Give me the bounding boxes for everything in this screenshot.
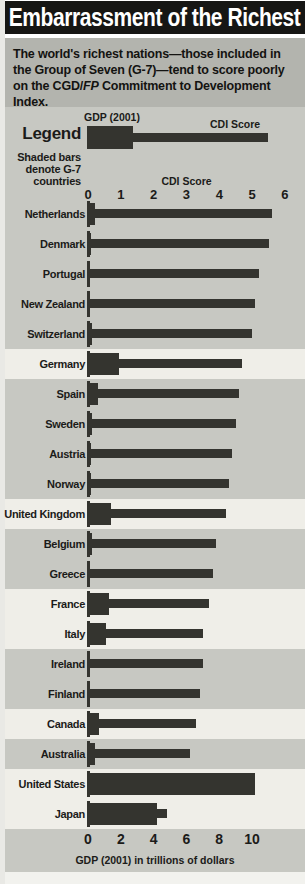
cdi-score-bar <box>88 689 200 698</box>
country-row: Belgium <box>5 529 305 559</box>
country-row: Denmark <box>5 229 305 259</box>
country-label: Austria <box>6 439 85 469</box>
legend-cdi-label: CDI Score <box>210 118 280 130</box>
country-row: Ireland <box>5 649 305 679</box>
country-label: Spain <box>6 379 85 409</box>
cdi-score-bar <box>88 629 203 638</box>
gdp-tick-label: 2 <box>117 831 125 847</box>
country-label: Italy <box>6 619 85 649</box>
chart-area: Legend GDP (2001) CDI Score Shaded bars … <box>5 107 305 872</box>
country-label: Sweden <box>6 409 85 439</box>
country-label: Australia <box>6 739 85 769</box>
cdi-score-bar <box>88 239 269 248</box>
country-label: Japan <box>6 799 85 829</box>
shaded-bars-note: Shaded bars denote G-7 countries <box>5 151 81 187</box>
gdp-tick-label: 10 <box>244 831 260 847</box>
cdi-score-bar <box>88 539 216 548</box>
country-label: United Kingdom <box>6 499 85 529</box>
cdi-score-bar <box>88 329 252 338</box>
country-label: Norway <box>6 469 85 499</box>
title-band: Embarrassment of the Richest <box>5 1 305 34</box>
cdi-score-bar <box>88 569 213 578</box>
country-label: Canada <box>6 709 85 739</box>
legend-gdp-label: GDP (2001) <box>65 111 159 123</box>
cdi-score-bar <box>88 599 209 608</box>
gdp-tick-label: 4 <box>150 831 158 847</box>
gdp-axis-title: GDP (2001) in trillions of dollars <box>5 854 305 866</box>
cdi-score-bar <box>88 269 259 278</box>
country-row: Greece <box>5 559 305 589</box>
country-label: Finland <box>6 679 85 709</box>
cdi-axis-title: CDI Score <box>88 175 285 187</box>
country-row: United States <box>5 769 305 799</box>
figure-subtitle: The world's richest nations—those includ… <box>13 47 285 109</box>
cdi-score-bar <box>88 359 242 368</box>
cdi-score-bar <box>88 659 203 668</box>
fp-magazine-name: FP <box>83 79 99 93</box>
country-label: France <box>6 589 85 619</box>
figure-title: Embarrassment of the Richest <box>9 3 301 32</box>
gdp-tick-label: 6 <box>182 831 190 847</box>
country-label: Ireland <box>6 649 85 679</box>
country-row: France <box>5 589 305 619</box>
cdi-score-bar <box>88 809 167 818</box>
country-row: Japan <box>5 799 305 829</box>
page-bottom-margin <box>5 872 305 884</box>
country-label: Switzerland <box>6 319 85 349</box>
legend-gdp-bar-swatch <box>87 126 133 149</box>
gdp-tick-label: 8 <box>215 831 223 847</box>
cdi-score-bar <box>88 719 196 728</box>
country-row: Portugal <box>5 259 305 289</box>
cdi-score-bar <box>88 419 236 428</box>
country-row: Canada <box>5 709 305 739</box>
country-row: Norway <box>5 469 305 499</box>
country-label: Germany <box>6 349 85 379</box>
country-row: Switzerland <box>5 319 305 349</box>
gdp-tick-label: 0 <box>84 831 92 847</box>
legend-cdi-bar-swatch <box>133 133 268 142</box>
cdi-score-bar <box>88 449 232 458</box>
cdi-score-bar <box>88 209 272 218</box>
country-label: Denmark <box>6 229 85 259</box>
country-row: Australia <box>5 739 305 769</box>
country-row: Italy <box>5 619 305 649</box>
country-row: New Zealand <box>5 289 305 319</box>
cdi-score-bar <box>88 749 190 758</box>
cdi-score-bar <box>88 479 229 488</box>
country-row: Austria <box>5 439 305 469</box>
gdp-bar <box>88 773 255 795</box>
gdp-axis-ticks: 0246810 <box>5 831 305 846</box>
country-row: Sweden <box>5 409 305 439</box>
country-row: Netherlands <box>5 199 305 229</box>
country-label: New Zealand <box>6 289 85 319</box>
country-row: Germany <box>5 349 305 379</box>
figure-page: Embarrassment of the Richest The world's… <box>5 0 305 884</box>
country-label: Portugal <box>6 259 85 289</box>
subtitle-band: The world's richest nations—those includ… <box>5 38 305 107</box>
country-row: United Kingdom <box>5 499 305 529</box>
country-label: Netherlands <box>6 199 85 229</box>
country-row: Spain <box>5 379 305 409</box>
cdi-score-bar <box>88 299 255 308</box>
country-rows: NetherlandsDenmarkPortugalNew ZealandSwi… <box>5 199 305 829</box>
legend-heading: Legend <box>5 124 81 144</box>
country-label: Greece <box>6 559 85 589</box>
country-label: Belgium <box>6 529 85 559</box>
country-row: Finland <box>5 679 305 709</box>
country-label: United States <box>6 769 85 799</box>
cdi-score-bar <box>88 389 239 398</box>
cdi-score-bar <box>88 509 226 518</box>
